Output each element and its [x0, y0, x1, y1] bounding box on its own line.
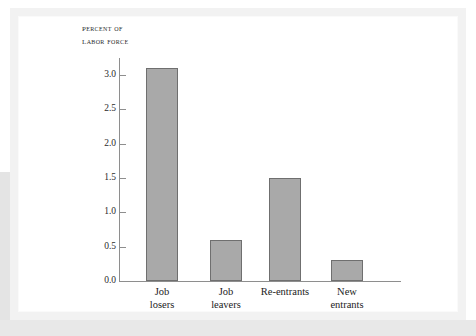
bar	[331, 260, 363, 281]
y-axis-title-line-2: Labor force	[82, 35, 128, 48]
y-axis-tick	[120, 109, 126, 110]
y-axis-tick	[120, 144, 126, 145]
y-axis-tick-label-text: 2.0	[92, 139, 116, 149]
x-axis-category-label: New entrants	[307, 286, 387, 311]
y-axis-tick	[120, 212, 126, 213]
y-axis-tick-label-text: 0.5	[92, 242, 116, 252]
y-axis-tick-label: 1.0	[92, 207, 116, 217]
y-axis-tick-label-text: 1.0	[92, 207, 116, 217]
y-axis-title: Percent of Labor force	[82, 22, 128, 47]
figure-page: Percent of Labor force 0.00.51.01.52.02.…	[0, 0, 476, 336]
y-axis-tick-label-text: 2.5	[92, 104, 116, 114]
y-axis-tick-label: 3.0	[92, 70, 116, 80]
bar	[210, 240, 242, 281]
y-axis-line	[119, 58, 120, 282]
y-axis-tick	[120, 281, 126, 282]
y-axis-tick-label: 1.5	[92, 173, 116, 183]
x-axis-line	[119, 281, 401, 282]
bar	[146, 68, 178, 281]
y-axis-tick	[120, 247, 126, 248]
y-axis-tick	[120, 178, 126, 179]
y-axis-tick-label: 0.5	[92, 242, 116, 252]
y-axis-tick-label-text: 3.0	[92, 70, 116, 80]
y-axis-tick-label-text: 0.0	[92, 276, 116, 286]
y-axis-tick-label-text: 1.5	[92, 173, 116, 183]
bar	[269, 178, 301, 281]
y-axis-tick-label: 2.5	[92, 104, 116, 114]
y-axis-tick-label: 0.0	[92, 276, 116, 286]
y-axis-tick-label: 2.0	[92, 139, 116, 149]
y-axis-title-line-1: Percent of	[82, 22, 128, 35]
bar-chart: Percent of Labor force 0.00.51.01.52.02.…	[0, 0, 476, 336]
y-axis-tick	[120, 75, 126, 76]
